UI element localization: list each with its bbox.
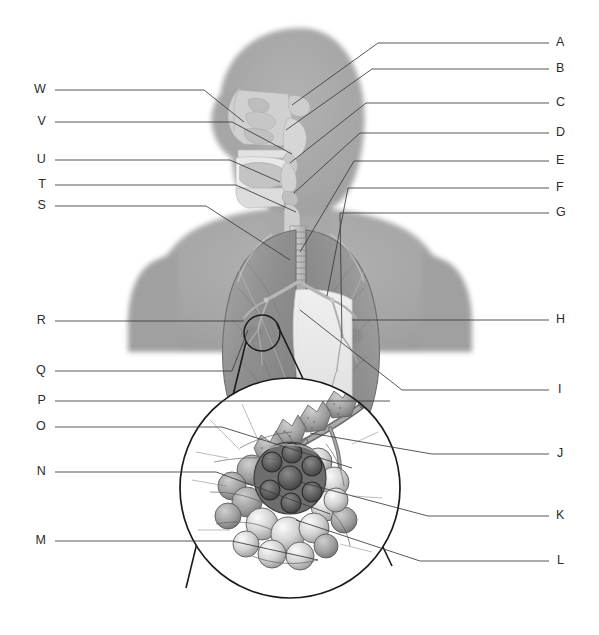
label-B: B [556, 62, 565, 75]
label-N: N [30, 465, 46, 478]
label-G: G [556, 206, 566, 219]
respiratory-system-figure [0, 0, 599, 635]
sectioned-alveolar-sac [254, 442, 326, 514]
label-F: F [556, 181, 564, 194]
label-T: T [30, 178, 46, 191]
label-U: U [30, 153, 46, 166]
label-A: A [556, 36, 565, 49]
label-D: D [556, 126, 565, 139]
alveoli-detail-inset [180, 376, 400, 598]
label-I: I [558, 383, 562, 396]
label-C: C [556, 96, 565, 109]
label-H: H [556, 313, 565, 326]
label-O: O [30, 420, 46, 433]
diagram-canvas: A B C D E F G H I J K L W V U T S R Q P … [0, 0, 599, 635]
label-K: K [556, 509, 565, 522]
label-R: R [30, 314, 46, 327]
label-L: L [557, 554, 564, 567]
label-S: S [30, 199, 46, 212]
label-W: W [30, 83, 46, 96]
label-M: M [30, 534, 46, 547]
label-Q: Q [30, 364, 46, 377]
label-V: V [30, 115, 46, 128]
label-E: E [556, 154, 565, 167]
label-J: J [557, 447, 563, 460]
label-P: P [30, 394, 46, 407]
